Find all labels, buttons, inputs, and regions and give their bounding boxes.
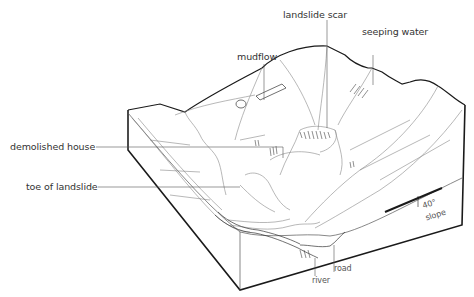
label-mudflow: mudflow — [237, 51, 277, 62]
landslide-block-diagram: landslide scar seeping water mudflow dem… — [0, 0, 474, 297]
label-demolished-house: demolished house — [10, 141, 95, 152]
mudflow-shape — [236, 84, 286, 108]
label-river: river — [312, 275, 330, 286]
leader-lines — [96, 20, 373, 276]
label-road: road — [334, 263, 352, 274]
label-landslide-scar: landslide scar — [283, 9, 347, 20]
hatching — [255, 84, 368, 258]
terrain-ridge — [128, 46, 465, 112]
label-toe-of-landslide: toe of landslide — [26, 181, 98, 192]
block-outline — [128, 105, 465, 290]
terrain-contours — [132, 46, 462, 232]
river-road — [215, 212, 345, 258]
label-seeping-water: seeping water — [362, 26, 428, 37]
